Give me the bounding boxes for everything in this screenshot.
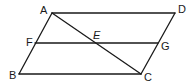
point-label-e: E: [93, 29, 101, 41]
geometry-diagram: A D F E G B C: [0, 0, 190, 84]
point-label-a: A: [40, 4, 48, 16]
point-label-c: C: [144, 71, 152, 83]
point-label-b: B: [9, 69, 16, 81]
point-label-d: D: [178, 3, 186, 15]
point-label-f: F: [26, 36, 33, 48]
point-label-g: G: [161, 40, 170, 52]
segments-group: [19, 13, 175, 74]
